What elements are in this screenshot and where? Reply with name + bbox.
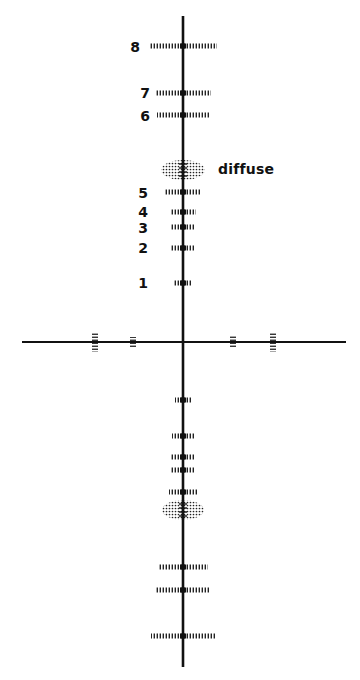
label-level-8: 8 — [120, 40, 140, 54]
label-level-2: 2 — [128, 241, 148, 255]
label-level-6: 6 — [130, 109, 150, 123]
label-level-3: 3 — [128, 221, 148, 235]
label-level-7: 7 — [130, 86, 150, 100]
label-level-4: 4 — [128, 205, 148, 219]
label-diffuse: diffuse — [218, 162, 274, 176]
label-level-1: 1 — [128, 276, 148, 290]
spectral-diagram — [0, 0, 360, 680]
label-level-5: 5 — [128, 186, 148, 200]
